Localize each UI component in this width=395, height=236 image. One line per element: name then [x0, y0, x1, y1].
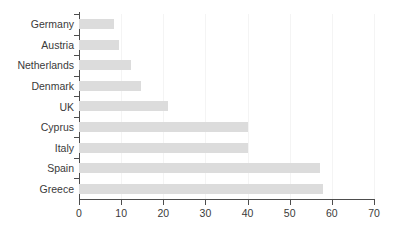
y-axis-tick [74, 55, 79, 56]
x-axis-tick [163, 200, 164, 205]
plot-area [79, 14, 374, 199]
y-axis-tick [74, 35, 79, 36]
x-axis-tick [79, 200, 80, 205]
x-axis-tick [332, 200, 333, 205]
x-axis-tick [290, 200, 291, 205]
x-axis-tick [374, 200, 375, 205]
y-axis-tick-label: Cyprus [0, 121, 74, 133]
bar[interactable] [79, 122, 248, 132]
gridline [374, 14, 375, 199]
y-axis-tick-label: Austria [0, 39, 74, 51]
x-axis-tick-label: 20 [148, 207, 178, 219]
y-axis-tick-label: Spain [0, 162, 74, 174]
x-axis-tick [121, 200, 122, 205]
y-axis-tick [74, 96, 79, 97]
y-axis-tick-label: Greece [0, 183, 74, 195]
horizontal-bar-chart: GermanyAustriaNetherlandsDenmarkUKCyprus… [0, 0, 395, 236]
x-axis-tick-label: 50 [275, 207, 305, 219]
bar-row [79, 158, 374, 179]
bar-row [79, 14, 374, 35]
x-axis-tick-label: 10 [106, 207, 136, 219]
y-axis-tick-label: Germany [0, 18, 74, 30]
bar-row [79, 96, 374, 117]
bar[interactable] [79, 60, 131, 70]
x-axis-tick-label: 40 [233, 207, 263, 219]
bar-row [79, 117, 374, 138]
y-axis-tick [74, 14, 79, 15]
y-axis-tick [74, 137, 79, 138]
x-axis-tick-label: 30 [190, 207, 220, 219]
bar[interactable] [79, 81, 141, 91]
y-axis-tick-label: Italy [0, 142, 74, 154]
bar[interactable] [79, 143, 248, 153]
x-axis-tick-label: 60 [317, 207, 347, 219]
bar[interactable] [79, 101, 168, 111]
bar-row [79, 137, 374, 158]
bar[interactable] [79, 163, 320, 173]
bar-row [79, 55, 374, 76]
x-axis-tick-label: 0 [64, 207, 94, 219]
y-axis-tick [74, 178, 79, 179]
y-axis-tick-label: UK [0, 101, 74, 113]
x-axis-tick [248, 200, 249, 205]
x-axis-tick [205, 200, 206, 205]
bar-row [79, 76, 374, 97]
y-axis-tick [74, 158, 79, 159]
y-axis-tick [74, 117, 79, 118]
y-axis-tick [74, 76, 79, 77]
y-axis-tick-label: Netherlands [0, 59, 74, 71]
x-axis-tick-label: 70 [359, 207, 389, 219]
bar-row [79, 35, 374, 56]
y-axis-tick-label: Denmark [0, 80, 74, 92]
bar[interactable] [79, 40, 119, 50]
bar[interactable] [79, 19, 114, 29]
x-axis-line [79, 199, 375, 200]
bar-row [79, 178, 374, 199]
bar[interactable] [79, 184, 323, 194]
